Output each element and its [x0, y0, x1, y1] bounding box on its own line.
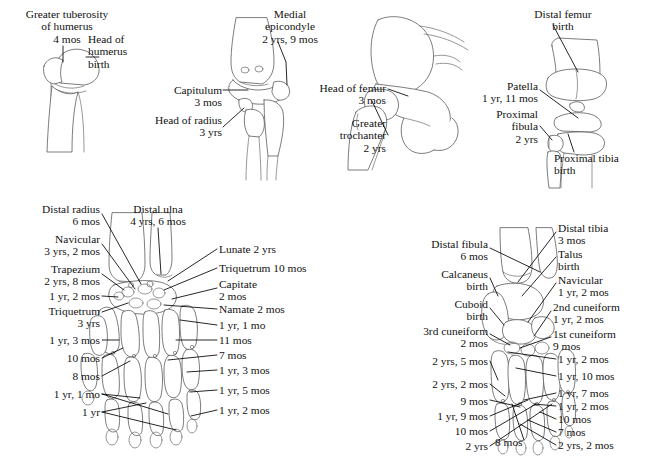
label-third-cuneiform: 3rd cuneiform 2 mos: [383, 325, 488, 350]
label-foot-r-1yr7mos: 1 yr, 7 mos: [558, 387, 645, 399]
label-foot-2yrs5mos: 2 yrs, 5 mos: [386, 355, 488, 367]
label-hand-8mos: 8 mos: [2, 370, 100, 382]
label-capitulum: Capitulum 3 mos: [150, 84, 222, 109]
anatomical-figure: Greater tuberosity of humerus 4 mos Head…: [0, 0, 645, 461]
label-triquetrum-right: Triquetrum 10 mos: [219, 262, 349, 274]
label-hand-1yr3mos: 1 yr, 3 mos: [2, 334, 100, 346]
label-hand-r-1yr1mo: 1 yr, 1 mo: [219, 319, 339, 331]
label-proximal-fibula: Proximal fibula 2 yrs: [462, 108, 538, 145]
label-foot-r-2yrs2mos: 2 yrs, 2 mos: [558, 439, 645, 451]
label-foot-2yrs: 2 yrs: [386, 440, 488, 452]
label-hand-r-7mos: 7 mos: [219, 349, 339, 361]
label-distal-radius: Distal radius 6 mos: [2, 203, 100, 228]
label-hand-r-11mos: 11 mos: [219, 334, 339, 346]
label-foot-r-1yr10mos: 1 yr, 10 mos: [558, 370, 645, 382]
label-distal-ulna: Distal ulna 4 yrs, 6 mos: [112, 203, 204, 228]
label-foot-r-10mos: 10 mos: [558, 413, 645, 425]
label-cuboid: Cuboid birth: [386, 298, 488, 323]
label-distal-tibia: Distal tibia 3 mos: [558, 222, 645, 247]
label-proximal-tibia: Proximal tibia birth: [554, 152, 644, 177]
label-hand-1yr: 1 yr: [2, 406, 100, 418]
label-triquetrum-hand: Triquetrum 3 yrs: [2, 305, 100, 330]
label-trapezium: Trapezium 2 yrs, 8 mos: [2, 263, 100, 288]
label-greater-trochanter: Greater trochanter 2 yrs: [300, 117, 386, 154]
label-foot-1yr9mos: 1 yr, 9 mos: [386, 410, 488, 422]
label-hand-10mos: 10 mos: [2, 352, 100, 364]
label-namate: Namate 2 mos: [219, 303, 339, 315]
label-talus: Talus birth: [558, 248, 645, 273]
label-foot-10mos: 10 mos: [386, 425, 488, 437]
label-foot-r-1yr2mos-b: 1 yr, 2 mos: [558, 400, 645, 412]
label-calcaneus: Calcaneus birth: [386, 268, 488, 293]
label-foot-8mos: 8 mos: [495, 436, 545, 448]
label-hand-r-1yr5mos: 1 yr, 5 mos: [219, 384, 339, 396]
label-patella: Patella 1 yr, 11 mos: [452, 80, 538, 105]
label-navicular-foot: Navicular 1 yr, 2 mos: [558, 274, 645, 299]
label-navicular-hand: Navicular 3 yrs, 2 mos: [2, 233, 100, 258]
label-foot-r-1yr2mos: 1 yr, 2 mos: [558, 353, 645, 365]
label-hand-r-1yr3mos: 1 yr, 3 mos: [219, 364, 339, 376]
label-capitate: Capitate 2 mos: [219, 278, 339, 303]
label-foot-2yrs2mos: 2 yrs, 2 mos: [386, 378, 488, 390]
label-hand-r-1yr2mos: 1 yr, 2 mos: [219, 404, 339, 416]
label-first-cuneiform: 1st cuneiform 9 mos: [553, 328, 645, 353]
label-lunate: Lunate 2 yrs: [219, 243, 347, 255]
label-foot-r-7mos: 7 mos: [558, 426, 645, 438]
label-distal-femur: Distal femur birth: [518, 8, 608, 33]
label-second-cuneiform: 2nd cuneiform 1 yr, 2 mos: [553, 301, 645, 326]
label-medial-epicondyle: Medial epicondyle 2 yrs, 9 mos: [244, 8, 336, 45]
label-head-of-radius: Head of radius 3 yrs: [130, 114, 222, 139]
label-hand-1yr1mo: 1 yr, 1 mo: [2, 388, 100, 400]
label-distal-fibula: Distal fibula 6 mos: [386, 238, 488, 263]
label-head-of-humerus: Head of humerus birth: [88, 33, 158, 70]
label-head-of-femur: Head of femur 3 mos: [296, 82, 386, 107]
label-foot-9mos: 9 mos: [386, 395, 488, 407]
label-hand-1yr2mos: 1 yr, 2 mos: [2, 290, 100, 302]
